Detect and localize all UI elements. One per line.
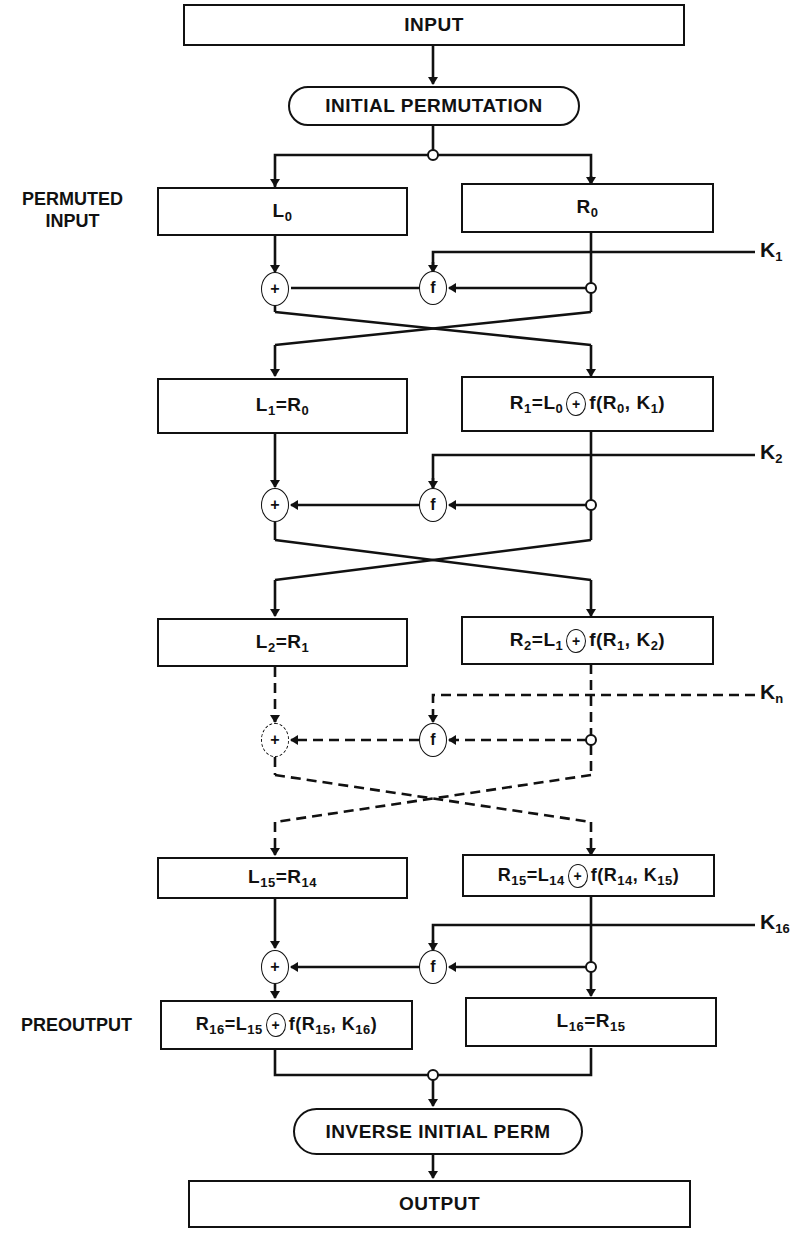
f-function-node-round16: f (419, 950, 447, 984)
r2-equation: R2=L1+f(R1, K2) (510, 629, 665, 653)
initial-permutation-label: INITIAL PERMUTATION (325, 95, 542, 117)
l16-equation: L16=R15 (557, 1010, 626, 1034)
xor-node-round2: + (261, 488, 289, 522)
initial-permutation-box: INITIAL PERMUTATION (288, 86, 580, 126)
output-label: OUTPUT (399, 1193, 480, 1215)
l15-equation: L15=R14 (248, 866, 317, 890)
preoutput-label: PREOUTPUT (21, 1014, 132, 1036)
f-function-node-round1: f (419, 271, 447, 305)
f-function-node-round-n: f (419, 723, 447, 757)
input-box: INPUT (183, 4, 685, 46)
key-kn-label: Kn (760, 680, 783, 706)
xor-icon: + (566, 392, 586, 416)
xor-icon: + (266, 1013, 286, 1037)
l2-box: L2=R1 (157, 618, 408, 667)
l0-box: L0 (157, 187, 408, 236)
r1-box: R1=L0+f(R0, K1) (461, 376, 714, 432)
r1-equation: R1=L0+f(R0, K1) (510, 392, 665, 416)
xor-node-round1: + (261, 272, 289, 306)
xor-node-round16: + (261, 950, 289, 984)
r0-box: R0 (461, 183, 714, 233)
f-function-node-round2: f (419, 488, 447, 522)
r2-box: R2=L1+f(R1, K2) (461, 616, 714, 665)
key-k16-label: K16 (760, 910, 790, 936)
r15-equation: R15=L14+f(R14, K15) (498, 864, 679, 888)
r16-equation: R16=L15+f(R15, K16) (196, 1013, 377, 1037)
l15-box: L15=R14 (157, 857, 408, 899)
output-box: OUTPUT (188, 1180, 691, 1228)
l2-equation: L2=R1 (256, 631, 309, 655)
l16-box: L16=R15 (465, 997, 717, 1047)
permuted-input-label: PERMUTED INPUT (22, 188, 123, 232)
input-label: INPUT (404, 14, 464, 36)
r16-preoutput-box: R16=L15+f(R15, K16) (160, 1000, 413, 1050)
r0-text: R0 (577, 196, 599, 220)
l0-text: L0 (273, 200, 293, 224)
key-k2-label: K2 (760, 440, 782, 466)
inverse-initial-perm-label: INVERSE INITIAL PERM (325, 1121, 550, 1143)
xor-icon: + (566, 629, 586, 653)
r15-box: R15=L14+f(R14, K15) (462, 854, 715, 897)
l1-box: L1=R0 (157, 378, 408, 434)
xor-icon: + (568, 864, 588, 888)
inverse-initial-perm-box: INVERSE INITIAL PERM (293, 1108, 583, 1155)
permuted-label-line1: PERMUTED (22, 188, 123, 210)
permuted-label-line2: INPUT (22, 210, 123, 232)
xor-node-round-n: + (261, 723, 289, 757)
key-k1-label: K1 (760, 238, 782, 264)
l1-equation: L1=R0 (256, 394, 309, 418)
